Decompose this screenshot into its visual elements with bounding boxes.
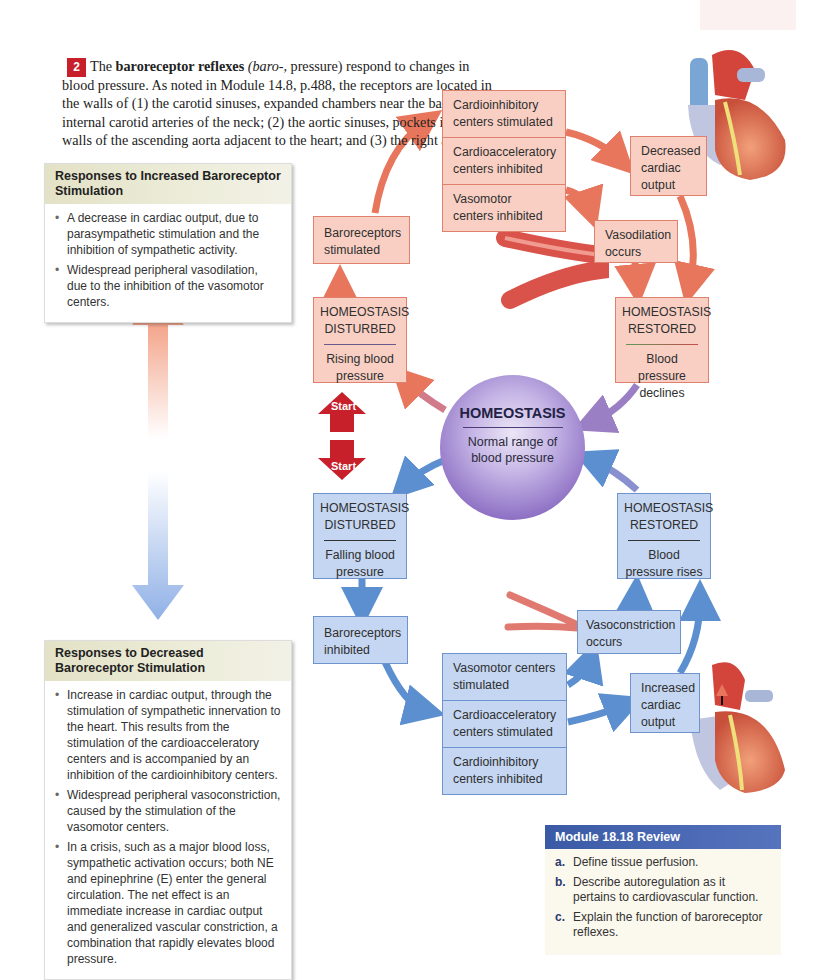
vasoconstriction-box: Vasoconstriction occurs: [577, 610, 681, 654]
intro-paragraph: The baroreceptor reflexes (baro-, pressu…: [62, 57, 502, 150]
dilated-vessel-illustration: [505, 238, 600, 300]
start-label-up: Start: [331, 400, 356, 412]
homeostasis-disturbed-rising-box: HOMEOSTASIS DISTURBED Rising blood press…: [313, 297, 407, 383]
decreased-stimulation-panel: Responses to Decreased Baroreceptor Stim…: [44, 640, 292, 980]
decreased-panel-title: Responses to Decreased Baroreceptor Stim…: [45, 641, 291, 681]
vasomotor-inhibited: Vasomotor centers inhibited: [443, 184, 565, 231]
cns-response-stack-bottom: Vasomotor centers stimulated Cardioaccel…: [442, 653, 567, 795]
review-title: Module 18.18 Review: [545, 825, 781, 849]
increased-response-item: Widespread peripheral vasodilation, due …: [55, 262, 281, 310]
cardioacceleratory-inhibited: Cardioacceleratory centers inhibited: [443, 137, 565, 184]
review-item: b.Describe autoregulation as it pertains…: [555, 875, 771, 905]
heart-illustration-bottom: [690, 662, 785, 793]
module-review-box: Module 18.18 Review a.Define tissue perf…: [545, 825, 781, 955]
cns-response-stack-top: Cardioinhibitory centers stimulated Card…: [442, 90, 566, 232]
cardioinhibitory-inhibited: Cardioinhibitory centers inhibited: [443, 747, 566, 794]
homeostasis-restored-declines-box: HOMEOSTASIS RESTORED Blood pressure decl…: [615, 297, 709, 383]
review-item-text: Explain the function of baroreceptor ref…: [573, 910, 762, 939]
cardioacceleratory-stimulated: Cardioacceleratory centers stimulated: [443, 700, 566, 747]
homeostasis-circle: HOMEOSTASIS Normal range of blood pressu…: [440, 375, 585, 520]
start-arrow-up: [318, 392, 366, 432]
increased-response-item: A decrease in cardiac output, due to par…: [55, 210, 281, 258]
homeostasis-subtitle: Normal range of blood pressure: [440, 434, 585, 466]
disturbed-subtitle: Rising blood pressure: [326, 352, 394, 383]
decreased-response-item: Increase in cardiac output, through the …: [55, 687, 281, 783]
decreased-response-item: In a crisis, such as a major blood loss,…: [55, 839, 281, 967]
intro-bold-term: baroreceptor reflexes: [116, 58, 245, 74]
review-item-letter: a.: [555, 855, 565, 870]
intro-text-before: The: [90, 58, 116, 74]
restored-subtitle: Blood pressure declines: [638, 352, 686, 400]
review-item-text: Define tissue perfusion.: [573, 855, 698, 869]
decreased-cardiac-output-box: Decreased cardiac output: [630, 136, 707, 196]
review-item-letter: b.: [555, 875, 566, 890]
constricted-vessel-illustration: [508, 595, 578, 628]
decreased-response-item: Widespread peripheral vasoconstriction, …: [55, 787, 281, 835]
start-label-down: Start: [331, 460, 356, 472]
restored-title: HOMEOSTASIS RESTORED: [622, 304, 702, 342]
review-item-letter: c.: [555, 910, 565, 925]
cardioinhibitory-stimulated: Cardioinhibitory centers stimulated: [443, 91, 565, 137]
review-item: c.Explain the function of baroreceptor r…: [555, 910, 771, 940]
disturbed-title: HOMEOSTASIS DISTURBED: [320, 304, 400, 342]
homeostasis-disturbed-falling-box: HOMEOSTASIS DISTURBED Falling blood pres…: [313, 493, 407, 579]
homeostasis-restored-rises-box: HOMEOSTASIS RESTORED Blood pressure rise…: [617, 493, 711, 579]
baroreceptors-inhibited-box: Baroreceptors inhibited: [313, 616, 408, 664]
intro-italic-term: (baro-,: [248, 58, 287, 74]
vasomotor-stimulated: Vasomotor centers stimulated: [443, 654, 566, 700]
restored-title: HOMEOSTASIS RESTORED: [624, 500, 704, 538]
review-item-text: Describe autoregulation as it pertains t…: [573, 875, 758, 904]
disturbed-subtitle: Falling blood pressure: [325, 548, 395, 579]
vasodilation-box: Vasodilation occurs: [594, 220, 678, 263]
increased-panel-title: Responses to Increased Baroreceptor Stim…: [45, 164, 291, 204]
review-item: a.Define tissue perfusion.: [555, 855, 771, 870]
increased-cardiac-output-box: Increased cardiac output: [630, 673, 700, 733]
increased-stimulation-panel: Responses to Increased Baroreceptor Stim…: [44, 163, 292, 323]
disturbed-title: HOMEOSTASIS DISTURBED: [320, 500, 400, 538]
vertical-double-arrow: [132, 290, 184, 620]
baroreceptors-stimulated-box: Baroreceptors stimulated: [313, 216, 410, 264]
restored-subtitle: Blood pressure rises: [625, 548, 702, 579]
homeostasis-title: HOMEOSTASIS: [440, 405, 585, 421]
